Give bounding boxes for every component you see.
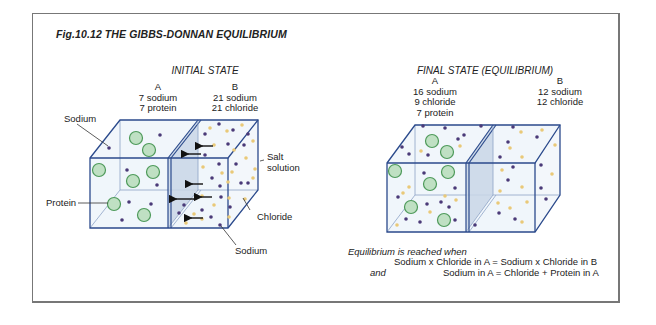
salt-solution-callout: Salt solution: [267, 152, 300, 173]
equilibrium-connector: and: [370, 267, 386, 278]
sodium-callout-top: Sodium: [64, 114, 96, 125]
equilibrium-condition-1: Sodium x Chloride in A = Sodium x Chlori…: [394, 256, 597, 267]
sodium-callout-bottom: Sodium: [235, 246, 267, 257]
equilibrium-condition-2: Sodium in A = Chloride + Protein in A: [443, 267, 599, 278]
chloride-callout: Chloride: [257, 212, 292, 223]
final-cube: [387, 124, 560, 232]
protein-callout: Protein: [46, 198, 76, 209]
salt-solution-line: solution: [267, 163, 300, 174]
initial-cube: [90, 120, 258, 228]
salt-solution-line: Salt: [267, 152, 300, 163]
